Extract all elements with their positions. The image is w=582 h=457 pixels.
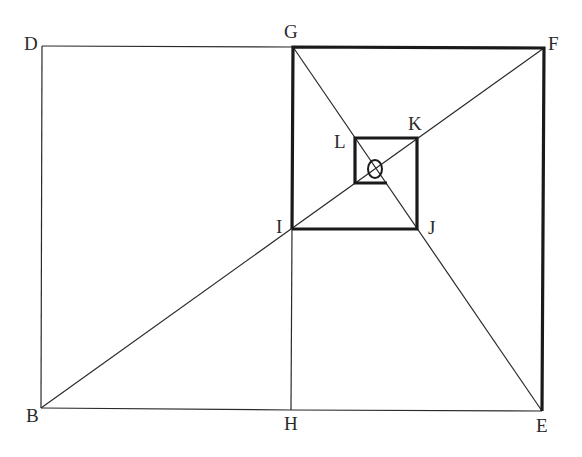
segment-HE (291, 410, 542, 411)
label-L: L (334, 131, 346, 152)
label-K: K (408, 113, 422, 134)
label-B: B (26, 405, 39, 426)
label-D: D (24, 33, 38, 54)
label-I: I (276, 216, 282, 237)
label-F: F (548, 33, 559, 54)
label-E: E (536, 415, 548, 436)
segment-DG (42, 46, 293, 47)
label-J: J (428, 217, 435, 238)
label-H: H (284, 413, 298, 434)
segment-GH (291, 229, 292, 410)
segment-BH (41, 408, 291, 410)
geometry-diagram: D G F B H E I J K L (0, 0, 582, 457)
segment-DB (41, 46, 42, 408)
label-G: G (284, 21, 298, 42)
